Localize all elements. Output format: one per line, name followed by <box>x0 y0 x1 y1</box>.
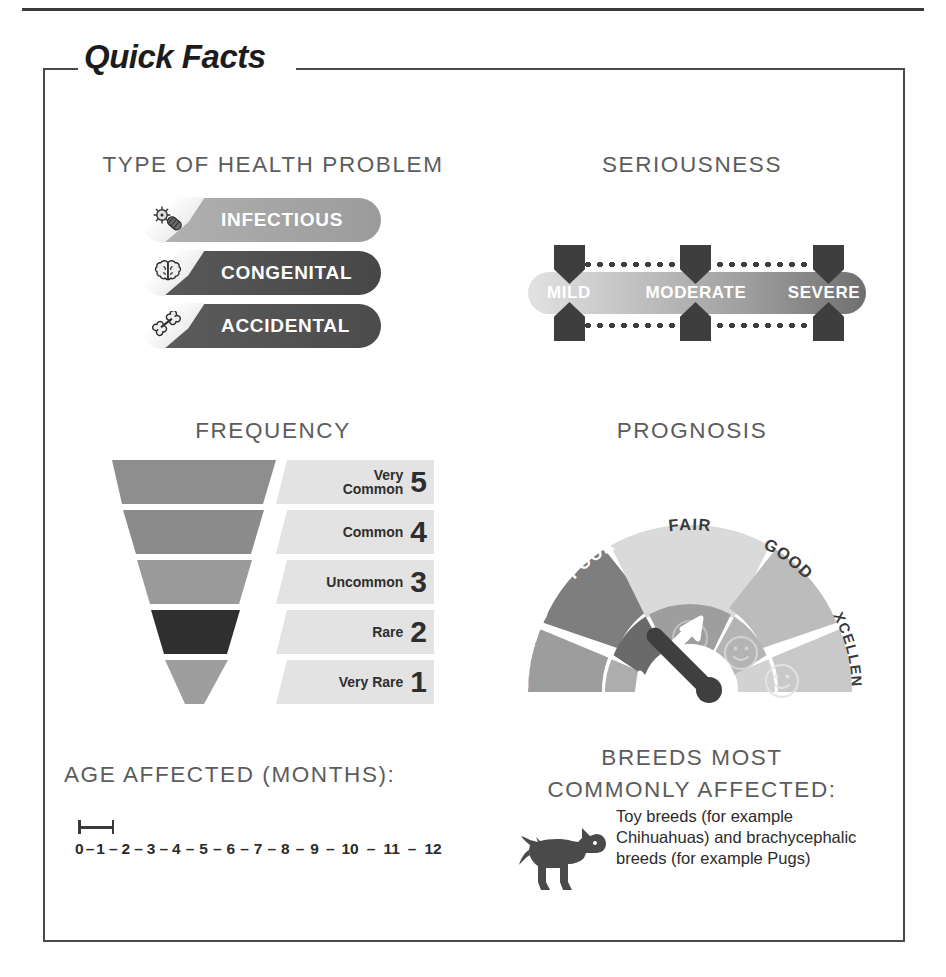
age-tick-separator: – <box>208 840 227 857</box>
section-heading-frequency: FREQUENCY <box>101 418 445 444</box>
breeds-heading-line1: BREEDS MOST <box>500 742 884 774</box>
funnel-slice-1 <box>112 660 276 704</box>
age-tick-0: 0 <box>75 840 84 857</box>
age-tick-6: 6 <box>227 840 236 857</box>
age-tick-separator: – <box>319 840 342 857</box>
section-heading-type-of-health-problem: TYPE OF HEALTH PROBLEM <box>101 152 445 178</box>
health-problem-label: INFECTIOUS <box>221 198 343 242</box>
seriousness-label-mild: MILD <box>534 272 604 314</box>
breeds-affected: Toy breeds (for example Chihuahuas) and … <box>516 808 886 908</box>
age-tick-4: 4 <box>172 840 181 857</box>
seriousness-label-severe: SEVERE <box>776 272 872 314</box>
frequency-label-1: Very Rare <box>339 675 404 689</box>
age-tick-2: 2 <box>122 840 131 857</box>
frequency-row-uncommon[interactable]: Uncommon 3 <box>112 560 434 604</box>
frequency-row-common[interactable]: Common 4 <box>112 510 434 554</box>
bone-icon <box>141 303 205 349</box>
health-problem-label: CONGENITAL <box>221 251 352 295</box>
age-tick-1: 1 <box>96 840 105 857</box>
section-heading-breeds: BREEDS MOST COMMONLY AFFECTED: <box>500 742 884 806</box>
frequency-label-4: Common <box>343 525 404 539</box>
health-problem-item-congenital[interactable]: CONGENITAL <box>143 251 381 295</box>
frequency-label-box-2: Rare 2 <box>276 610 434 654</box>
quick-facts-page: Quick Facts TYPE OF HEALTH PROBLEM IN <box>0 0 946 977</box>
frequency-value-2: 2 <box>410 617 427 647</box>
age-tick-8: 8 <box>281 840 290 857</box>
age-tick-separator: – <box>181 840 200 857</box>
funnel-slice-3 <box>112 560 276 604</box>
age-tick-separator: – <box>400 840 425 857</box>
frequency-value-5: 5 <box>410 467 427 497</box>
frequency-value-4: 4 <box>410 517 427 547</box>
age-range-marker <box>78 820 114 834</box>
prognosis-label-fair: FAIR <box>668 515 713 534</box>
age-tick-row: 0–1–2–3–4–5–6–7–8–9–10–11–12 <box>75 840 442 858</box>
page-top-rule <box>22 8 924 11</box>
frequency-label-3: Uncommon <box>326 575 403 589</box>
frequency-label-box-5: Very Common 5 <box>276 460 434 504</box>
page-title: Quick Facts <box>84 38 266 76</box>
breeds-heading-line2: COMMONLY AFFECTED: <box>500 774 884 806</box>
frequency-label-2: Rare <box>372 625 403 639</box>
dog-icon <box>516 812 608 898</box>
frequency-label-box-4: Common 4 <box>276 510 434 554</box>
age-tick-9: 9 <box>310 840 319 857</box>
health-problem-item-accidental[interactable]: ACCIDENTAL <box>143 304 381 348</box>
funnel-slice-5 <box>112 460 276 504</box>
funnel-slice-4 <box>112 510 276 554</box>
age-tick-separator: – <box>359 840 384 857</box>
frequency-value-1: 1 <box>410 667 427 697</box>
age-tick-separator: – <box>130 840 147 857</box>
frequency-row-very-rare[interactable]: Very Rare 1 <box>112 660 434 704</box>
germ-icon <box>141 197 205 243</box>
age-tick-5: 5 <box>199 840 208 857</box>
age-tick-separator: – <box>105 840 122 857</box>
age-tick-separator: – <box>262 840 281 857</box>
frequency-label-box-3: Uncommon 3 <box>276 560 434 604</box>
seriousness-label-moderate: MODERATE <box>630 272 762 314</box>
frequency-funnel: Very Common 5 Common 4 Uncommon 3 <box>112 460 434 710</box>
frequency-label-5: Very Common <box>343 468 404 496</box>
breeds-description: Toy breeds (for example Chihuahuas) and … <box>616 806 886 869</box>
health-problem-item-infectious[interactable]: INFECTIOUS <box>143 198 381 242</box>
type-of-health-problem-list: INFECTIOUS CONGENITAL <box>143 198 383 363</box>
brain-icon <box>141 250 205 296</box>
section-heading-age-affected: AGE AFFECTED (MONTHS): <box>64 762 484 788</box>
section-heading-seriousness: SERIOUSNESS <box>520 152 864 178</box>
age-affected-scale: 0–1–2–3–4–5–6–7–8–9–10–11–12 <box>64 818 484 880</box>
health-problem-label: ACCIDENTAL <box>221 304 350 348</box>
frequency-row-rare[interactable]: Rare 2 <box>112 610 434 654</box>
age-tick-12: 12 <box>424 840 441 857</box>
frequency-row-very-common[interactable]: Very Common 5 <box>112 460 434 504</box>
frequency-label-box-1: Very Rare 1 <box>276 660 434 704</box>
seriousness-dotted-connector-top-left <box>570 262 692 267</box>
age-tick-separator: – <box>155 840 172 857</box>
age-tick-separator: – <box>290 840 311 857</box>
seriousness-dotted-connector-bottom-left <box>570 323 692 328</box>
funnel-slice-2 <box>112 610 276 654</box>
frequency-value-3: 3 <box>410 567 427 597</box>
section-heading-prognosis: PROGNOSIS <box>520 418 864 444</box>
age-tick-separator: – <box>235 840 254 857</box>
age-tick-11: 11 <box>383 840 399 857</box>
age-tick-10: 10 <box>342 840 359 857</box>
age-tick-separator: – <box>84 840 97 857</box>
seriousness-scale: MILD MODERATE SEVERE <box>528 245 866 340</box>
prognosis-gauge: GUARDED POOR FAIR GOOD EXCELLENT <box>495 478 885 710</box>
